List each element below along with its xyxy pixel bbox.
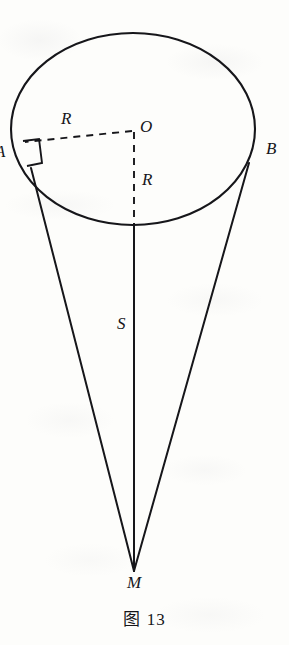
radius-horizontal-dashed — [25, 131, 132, 142]
label-apex-m: M — [127, 574, 141, 591]
label-center-o: O — [140, 118, 152, 135]
label-radius-horizontal: R — [61, 110, 71, 127]
label-radius-vertical: R — [142, 171, 152, 188]
base-ellipse — [11, 33, 255, 225]
slant-line-left — [31, 168, 134, 571]
label-slant-s: S — [117, 315, 126, 332]
figure-caption: 图 13 — [0, 605, 289, 630]
right-angle-icon — [23, 139, 42, 166]
label-point-a: A — [0, 143, 5, 160]
cone-diagram — [0, 0, 289, 645]
figure-page: A B O R R S M 图 13 — [0, 0, 289, 645]
label-point-b: B — [266, 140, 276, 157]
